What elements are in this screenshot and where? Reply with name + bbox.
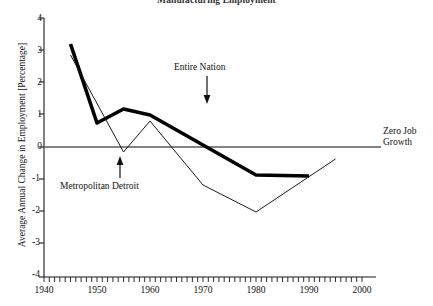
chart-screenshot: Manufacturing Employment Average Annual … (0, 0, 433, 306)
series-line-entire-nation (71, 44, 310, 176)
annotation-arrow-entire-nation (204, 76, 211, 104)
annotation-arrow-metropolitan-detroit (117, 156, 124, 178)
chart-canvas (0, 0, 433, 306)
series-line-metropolitan-detroit (71, 55, 336, 212)
x-axis-minor-ticks (44, 277, 362, 282)
y-axis-ticks (39, 18, 44, 277)
